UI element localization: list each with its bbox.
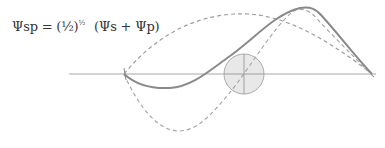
nucleus-node <box>224 54 264 94</box>
wavefunction-plot <box>0 0 385 148</box>
hybrid-orbital-diagram: Ψsp = (½)½(Ψs + Ψp) <box>0 0 385 148</box>
